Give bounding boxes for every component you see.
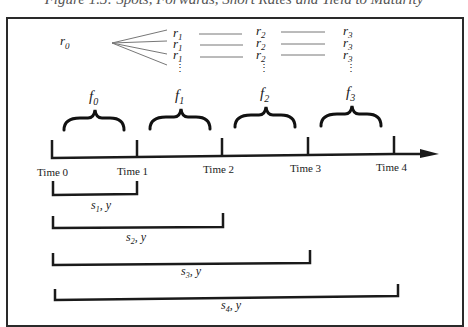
span-s2 [53,213,223,228]
brace-icon-f2 [235,107,295,127]
tick-label-time-1: Time 1 [117,165,148,177]
span-s1 [53,181,137,195]
span-label-s1: s1, y [91,198,112,214]
brace-icon-f3 [321,106,381,126]
tick-label-time-2: Time 2 [203,163,234,175]
tick-label-time-3: Time 3 [290,162,322,174]
arrow-head-icon [420,149,439,158]
svg-text:⋮: ⋮ [346,62,356,73]
span-labels: s1, y s2, y s3, y s4, y [91,198,242,314]
span-s4 [55,284,398,300]
rate-column-r3: r3 r3 r3 ⋮ [343,23,356,73]
brace-icon-f0 [64,110,124,130]
timeline-axis [52,136,439,158]
span-label-s3: s3, y [181,264,202,280]
rate-column-r2: r2 r2 r2 ⋮ [256,23,269,73]
rate-column-r1: r1 r1 r1 ⋮ [173,25,185,73]
forward-f3: f3 [346,84,355,103]
forward-f0: f0 [89,88,98,107]
span-s3 [53,250,310,265]
rate-r0: r0 [60,33,70,51]
short-rate-tree: r0 r1 r1 r1 ⋮ r2 r2 r2 ⋮ r [60,23,356,73]
forward-f1: f1 [175,87,184,106]
span-label-s4: s4, y [221,298,242,314]
svg-text:⋮: ⋮ [259,62,269,73]
tick-label-time-4: Time 4 [376,161,408,173]
span-label-s2: s2, y [126,230,147,246]
timeline-labels: Time 0 Time 1 Time 2 Time 3 Time 4 [37,161,408,178]
forward-f2: f2 [260,85,269,104]
brace-icon-f1 [150,109,210,129]
forward-rates: f0 f1 f2 f3 [64,84,381,130]
svg-text:⋮: ⋮ [175,62,185,73]
tick-label-time-0: Time 0 [37,166,69,178]
brace-icons [64,106,381,130]
branch-lines [112,30,325,65]
